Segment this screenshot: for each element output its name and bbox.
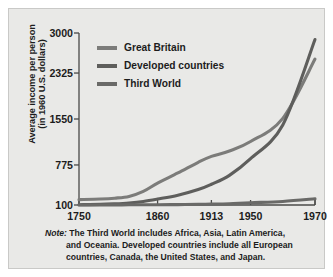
legend-item: Great Britain: [97, 42, 224, 53]
y-tick-label: 775: [55, 159, 73, 171]
note-line-3: countries, Canada, the United States, an…: [45, 251, 307, 263]
legend-item: Developed countries: [97, 60, 224, 71]
legend-item: Third World: [97, 78, 224, 89]
chart-legend: Great BritainDeveloped countriesThird Wo…: [97, 42, 224, 89]
note-line-2: and Oceania. Developed countries include…: [45, 239, 307, 251]
y-tick-label: 2325: [49, 67, 73, 79]
chart-note: Note: The Third World includes Africa, A…: [45, 227, 307, 264]
legend-swatch-icon: [97, 46, 117, 50]
legend-swatch-icon: [97, 82, 117, 86]
chart-screenshot: Average income per person (in 1960 U.S. …: [0, 0, 333, 277]
x-tick-label: 1750: [67, 210, 91, 222]
x-tick-label: 1950: [239, 210, 263, 222]
note-text-1: The Third World includes Africa, Asia, L…: [69, 228, 285, 238]
note-line-1: Note: The Third World includes Africa, A…: [45, 227, 307, 239]
y-axis-title-line-1: Average income per person: [27, 24, 37, 144]
chart-panel: Average income per person (in 1960 U.S. …: [8, 8, 325, 269]
note-label: Note:: [45, 228, 67, 238]
y-axis-title-line-2: (in 1960 U.S. dollars): [37, 39, 47, 128]
x-tick-label: 1913: [200, 210, 224, 222]
y-tick-label: 1550: [49, 113, 73, 125]
y-axis-title: Average income per person (in 1960 U.S. …: [22, 14, 52, 154]
x-tick-label: 1970: [303, 210, 327, 222]
legend-label: Great Britain: [124, 42, 186, 53]
y-tick-label: 3000: [49, 27, 73, 39]
legend-label: Third World: [124, 78, 181, 89]
x-tick-label: 1860: [146, 210, 170, 222]
legend-swatch-icon: [97, 64, 117, 68]
legend-label: Developed countries: [124, 60, 224, 71]
